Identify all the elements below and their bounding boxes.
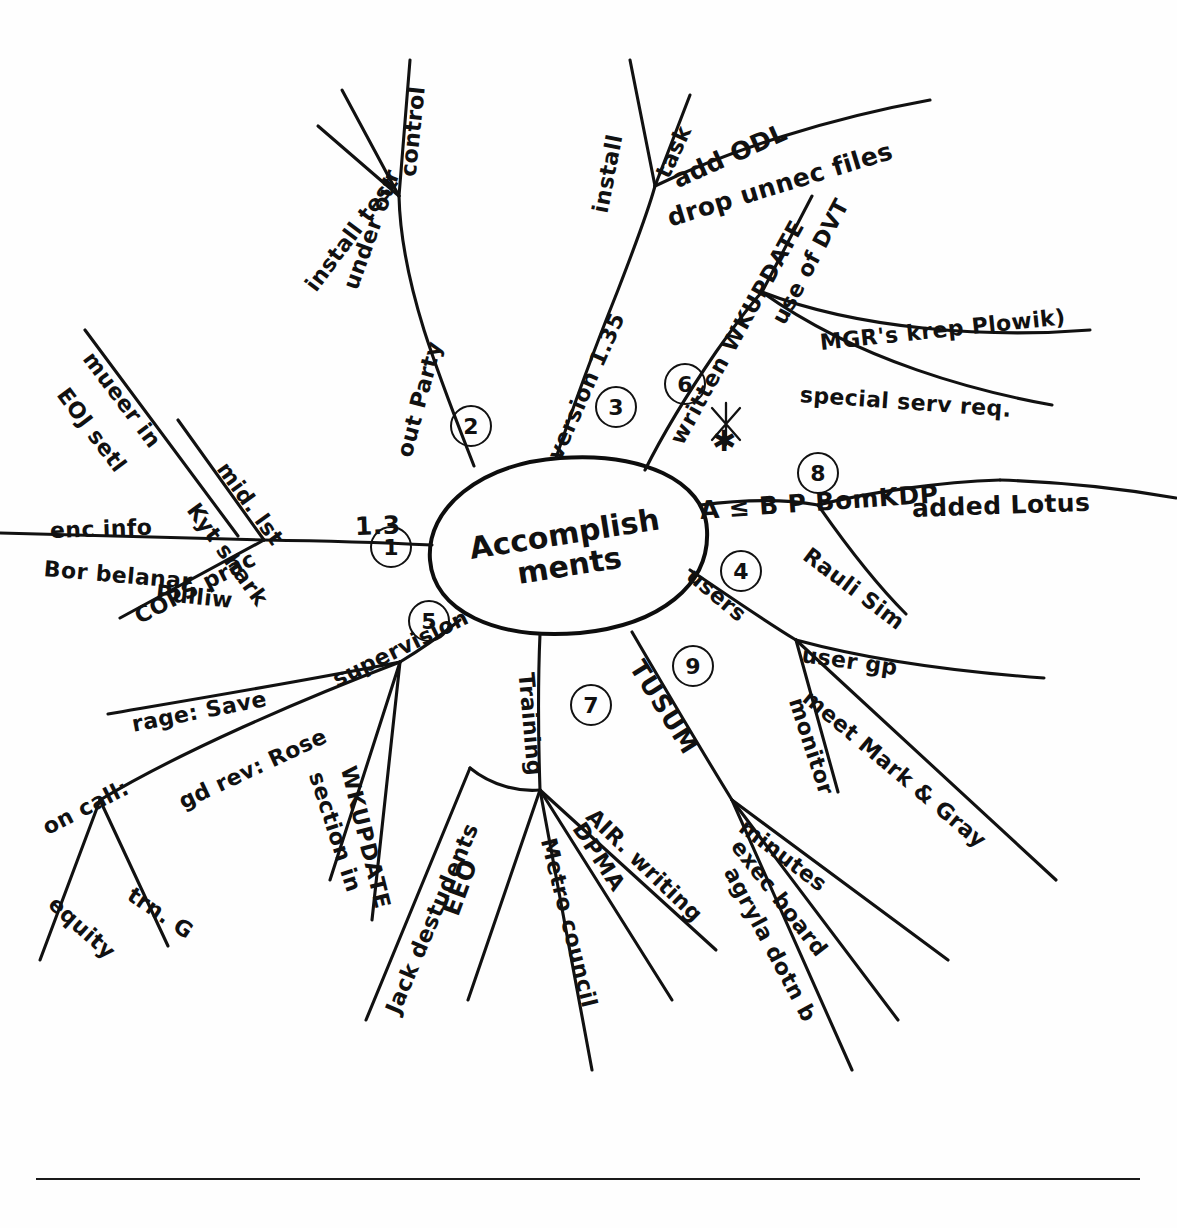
branch-1-child-enc-info: enc info <box>50 514 153 543</box>
branch-number-7[interactable]: 7 <box>570 684 612 726</box>
branch-number-9[interactable]: 9 <box>672 645 714 687</box>
bottom-rule-divider <box>36 1178 1140 1180</box>
branch-1-label: 1.3 <box>354 510 400 541</box>
asterisk-mark: ✱ <box>712 424 737 458</box>
mindmap-page: Accomplish ments 1 2 3 6 8 4 9 7 5 1.3 m… <box>0 0 1177 1228</box>
branch-number-2[interactable]: 2 <box>450 405 492 447</box>
branch-number-3[interactable]: 3 <box>595 386 637 428</box>
mindmap-drawing <box>0 0 1177 1228</box>
branch-8-child-added-lotus: added Lotus <box>911 488 1090 523</box>
